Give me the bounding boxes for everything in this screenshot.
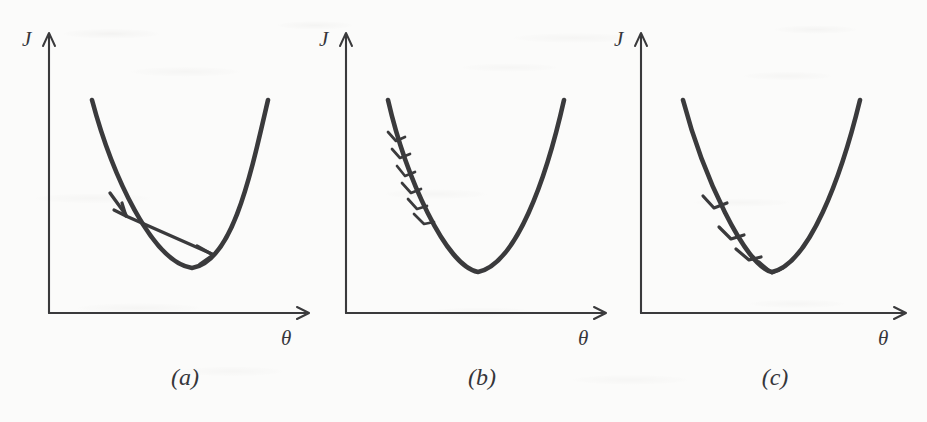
panel-c-caption: (c) — [715, 364, 835, 391]
panel-a-caption: (a) — [125, 364, 245, 391]
panel-c-plot: J θ — [597, 0, 927, 360]
panel-a: J θ (a) — [0, 0, 310, 422]
cost-curve — [92, 100, 268, 268]
cost-curve — [683, 100, 860, 272]
y-axis-label: J — [22, 27, 33, 51]
panel-c: J θ (c) — [597, 0, 927, 422]
x-axis-label: θ — [281, 326, 291, 350]
panel-b-plot: J θ — [300, 0, 610, 360]
panel-b-caption: (b) — [422, 364, 542, 391]
gradient-descent-figure: J θ (a) J θ — [0, 0, 927, 422]
y-axis-label: J — [319, 27, 330, 51]
panel-b: J θ (b) — [300, 0, 610, 422]
x-axis-label: θ — [878, 326, 888, 350]
panel-a-plot: J θ — [0, 0, 310, 360]
x-axis-label: θ — [578, 326, 588, 350]
y-axis-label: J — [614, 27, 625, 51]
cost-curve — [388, 100, 564, 272]
